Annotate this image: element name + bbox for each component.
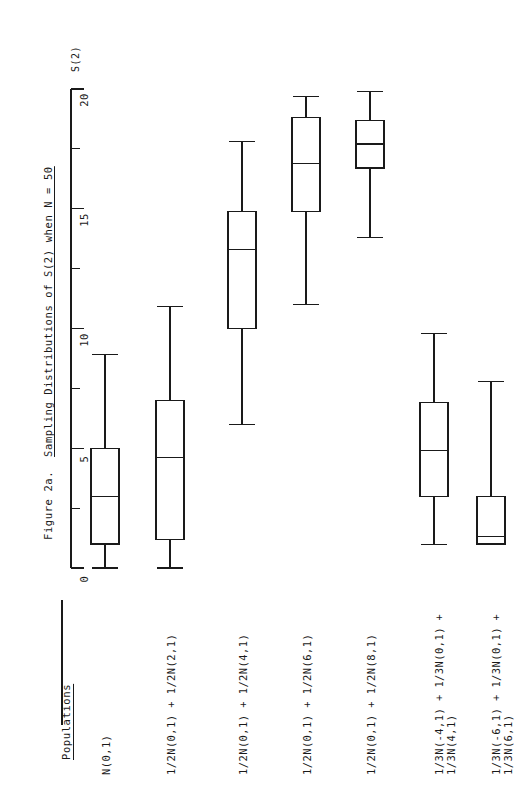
box-iqr xyxy=(228,211,256,328)
category-axis-label: 1/2N(0,1) + 1/2N(8,1) xyxy=(365,634,377,775)
category-axis-label-line: N(0,1) xyxy=(100,735,112,775)
value-axis-tick-label: 20 xyxy=(78,89,92,111)
value-axis-tick-label: 0 xyxy=(78,568,92,590)
category-axis-label-line: 1/3N(6,1) xyxy=(502,614,514,775)
category-axis-label: 1/2N(0,1) + 1/2N(2,1) xyxy=(165,634,177,775)
category-axis-label: N(0,1) xyxy=(100,735,112,775)
boxplot-group xyxy=(356,91,384,237)
boxplot-group xyxy=(420,333,448,544)
box-iqr xyxy=(156,400,184,539)
boxplot-group xyxy=(156,307,184,568)
category-axis-label-line: 1/3N(4,1) xyxy=(445,614,457,775)
category-axis-label: 1/3N(-4,1) + 1/3N(0,1) +1/3N(4,1) xyxy=(433,614,457,775)
category-axis-label: 1/2N(0,1) + 1/2N(6,1) xyxy=(301,634,313,775)
value-axis-tick-label: 5 xyxy=(78,448,92,470)
category-axis-label-line: 1/2N(0,1) + 1/2N(2,1) xyxy=(165,634,177,775)
boxplot-group xyxy=(292,96,320,304)
category-axis-label: 1/3N(-6,1) + 1/3N(0,1) +1/3N(6,1) xyxy=(490,614,514,775)
box-iqr xyxy=(420,403,448,496)
boxplot-group xyxy=(228,142,256,425)
category-axis-label-line: 1/2N(0,1) + 1/2N(6,1) xyxy=(301,634,313,775)
box-iqr xyxy=(292,118,320,211)
category-axis-label-line: 1/2N(0,1) + 1/2N(4,1) xyxy=(237,634,249,775)
boxplot-group xyxy=(477,381,505,544)
category-axis-label: 1/2N(0,1) + 1/2N(4,1) xyxy=(237,634,249,775)
value-axis-tick-label: 10 xyxy=(78,329,92,351)
boxplot-group xyxy=(91,355,119,568)
value-axis-tick-label: 15 xyxy=(78,209,92,231)
category-axis-label-line: 1/3N(-6,1) + 1/3N(0,1) + xyxy=(490,614,502,775)
category-axis-label-line: 1/2N(0,1) + 1/2N(8,1) xyxy=(365,634,377,775)
category-axis-label-line: 1/3N(-4,1) + 1/3N(0,1) + xyxy=(433,614,445,775)
figure-canvas: Figure 2a. Sampling Distributions of S(2… xyxy=(0,0,523,787)
